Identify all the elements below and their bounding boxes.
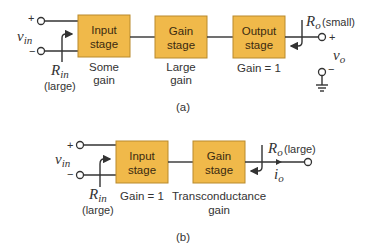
input-minus-terminal	[77, 172, 84, 179]
diagram-b: + − vin Rin (large) Input stage Gain = 1…	[55, 139, 316, 243]
vin-label: vin	[17, 28, 33, 46]
output-terminal	[305, 159, 312, 166]
vin-label: vin	[55, 151, 71, 169]
io-arrow-icon	[276, 159, 282, 165]
gain-stage-note-2: gain	[208, 204, 230, 216]
rin-label: Rin	[50, 62, 69, 80]
io-label: io	[274, 166, 284, 184]
rin-arrow-icon	[100, 159, 110, 187]
input-minus-terminal	[38, 48, 45, 55]
vo-label: vo	[333, 47, 346, 65]
gain-stage-box	[193, 141, 245, 183]
output-minus-terminal	[319, 69, 326, 76]
input-stage-label: Input	[129, 150, 155, 162]
input-stage-note-2: gain	[93, 74, 115, 86]
rin-label: Rin	[88, 186, 107, 204]
caption-a: (a)	[176, 101, 190, 113]
ro-label: Ro	[305, 13, 321, 31]
gain-stage-label-2: stage	[205, 164, 233, 176]
gain-stage-note: Transconductance	[172, 190, 266, 202]
vo-plus-sign: +	[329, 31, 335, 43]
gain-stage-label: Gain	[169, 25, 193, 37]
ro-note: (small)	[322, 16, 355, 28]
ro-note: (large)	[284, 143, 316, 155]
output-stage-label: Output	[242, 25, 277, 37]
input-stage-label-2: stage	[128, 164, 156, 176]
ground-icon	[316, 75, 328, 91]
caption-b: (b)	[176, 231, 190, 243]
input-stage-label: Input	[91, 24, 117, 36]
gain-stage-note-2: gain	[170, 74, 192, 86]
output-stage-note: Gain = 1	[237, 62, 281, 74]
gain-stage-label-2: stage	[167, 39, 195, 51]
input-stage-label-2: stage	[90, 38, 118, 50]
diagram-a: + − vin Rin (large) Input stage Some gai…	[17, 12, 355, 113]
plus-sign: +	[28, 12, 34, 24]
minus-sign: −	[29, 45, 35, 57]
input-stage-box	[116, 141, 168, 183]
rin-note: (large)	[44, 80, 76, 92]
gain-stage-note: Large	[166, 61, 195, 73]
rin-arrow-icon	[62, 34, 72, 62]
output-plus-terminal	[319, 34, 326, 41]
gain-stage-label: Gain	[207, 150, 231, 162]
input-stage-box	[78, 15, 130, 57]
gain-stage-box	[155, 16, 207, 58]
output-stage-box	[233, 16, 285, 58]
input-stage-note: Some	[89, 61, 119, 73]
input-plus-terminal	[77, 142, 84, 149]
ro-label: Ro	[267, 140, 283, 158]
output-stage-label-2: stage	[245, 39, 273, 51]
minus-sign: −	[67, 168, 73, 180]
input-stage-note: Gain = 1	[120, 190, 164, 202]
vo-minus-sign: −	[328, 63, 334, 75]
rin-note: (large)	[82, 204, 114, 216]
plus-sign: +	[67, 139, 73, 151]
ro-arrow-icon	[251, 145, 262, 171]
input-plus-terminal	[38, 18, 45, 25]
amplifier-block-diagrams: + − vin Rin (large) Input stage Some gai…	[0, 0, 367, 251]
ro-arrow-icon	[291, 20, 302, 46]
